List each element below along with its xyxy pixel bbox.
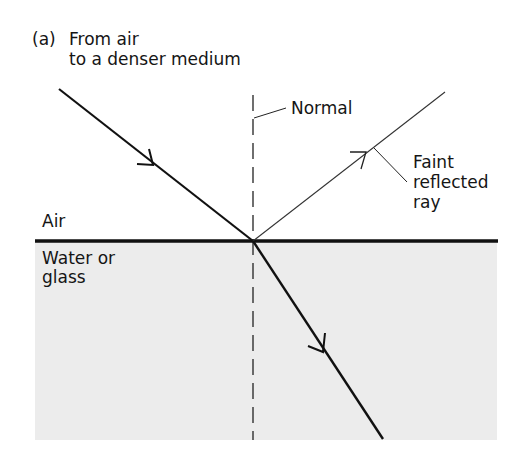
title-line-1: From air — [69, 30, 139, 49]
reflected-label-2: reflected — [413, 173, 489, 192]
refraction-diagram: (a) From air to a denser medium Normal F… — [0, 0, 526, 459]
title-line-2: to a denser medium — [69, 50, 241, 69]
reflected-label-1: Faint — [413, 153, 454, 172]
normal-leader — [254, 108, 286, 118]
reflected-label-3: ray — [413, 193, 440, 212]
medium-label-2: glass — [42, 268, 86, 287]
normal-label: Normal — [291, 99, 353, 118]
panel-label: (a) — [32, 30, 56, 49]
reflected-leader — [374, 148, 407, 182]
air-label: Air — [42, 212, 65, 231]
medium-label-1: Water or — [42, 249, 115, 268]
incident-ray — [59, 89, 253, 241]
denser-medium-region — [35, 242, 497, 440]
